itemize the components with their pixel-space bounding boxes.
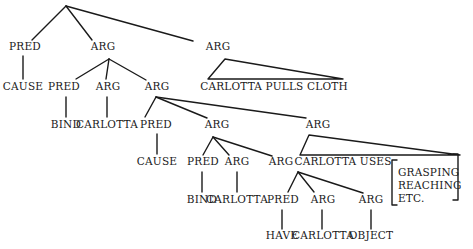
tree-edge xyxy=(288,172,298,192)
node-labels: PREDCAUSEARGARGCARLOTTA PULLS CLOTHPREDA… xyxy=(3,40,393,241)
tree-edge xyxy=(76,59,109,79)
tree-edge xyxy=(66,6,193,41)
tree-edge xyxy=(66,6,92,40)
node-label-carlotta3: CARLOTTA xyxy=(292,229,354,241)
abbreviation-triangle xyxy=(208,59,343,79)
node-label-object: OBJECT xyxy=(349,229,393,241)
node-label-pulls: CARLOTTA PULLS CLOTH xyxy=(200,80,348,92)
node-label-cause2: CAUSE xyxy=(137,155,177,167)
node-label-uses: CARLOTTA USES xyxy=(294,155,391,167)
abbreviation-triangle xyxy=(300,135,460,155)
tree-edge xyxy=(156,97,306,118)
node-label-l3_pred: PRED xyxy=(140,118,172,130)
node-label-l5_arg: ARG xyxy=(310,193,335,205)
bracket-item: REACHING xyxy=(398,179,462,191)
tree-edge xyxy=(106,59,109,79)
bracket-item: GRASPING xyxy=(398,166,459,178)
tree-edge xyxy=(109,59,146,80)
node-label-carlotta2: CARLOTTA xyxy=(206,193,268,205)
left-bracket xyxy=(392,160,397,205)
node-label-l5_arg2: ARG xyxy=(358,193,383,205)
node-label-l4_arg: ARG xyxy=(224,155,249,167)
tree-edge xyxy=(298,172,363,193)
node-label-l5_pred: PRED xyxy=(267,193,299,205)
node-label-l3_arg: ARG xyxy=(204,118,229,130)
tree-edge xyxy=(32,6,66,40)
abbreviation-triangles xyxy=(208,59,460,155)
node-label-l2_pred: PRED xyxy=(48,80,80,92)
node-label-l1_pred: PRED xyxy=(9,40,41,52)
node-label-l1_arg: ARG xyxy=(90,40,115,52)
tree-edge xyxy=(203,137,213,155)
node-label-l4_pred: PRED xyxy=(187,155,219,167)
node-label-l2_arg: ARG xyxy=(95,80,120,92)
bracket-item: ETC. xyxy=(398,192,424,204)
node-label-l4_arg2: ARG xyxy=(268,155,293,167)
node-label-l2_arg2: ARG xyxy=(144,80,169,92)
node-label-l3_arg2: ARG xyxy=(305,118,330,130)
node-label-l1_arg2: ARG xyxy=(205,40,230,52)
node-label-carlotta1: CARLOTTA xyxy=(76,118,138,130)
node-label-l1_cause: CAUSE xyxy=(3,80,43,92)
alternatives-bracket: GRASPING REACHING ETC. xyxy=(392,154,462,205)
tree-edge xyxy=(145,97,156,117)
tree-diagram: PREDCAUSEARGARGCARLOTTA PULLS CLOTHPREDA… xyxy=(0,0,473,249)
